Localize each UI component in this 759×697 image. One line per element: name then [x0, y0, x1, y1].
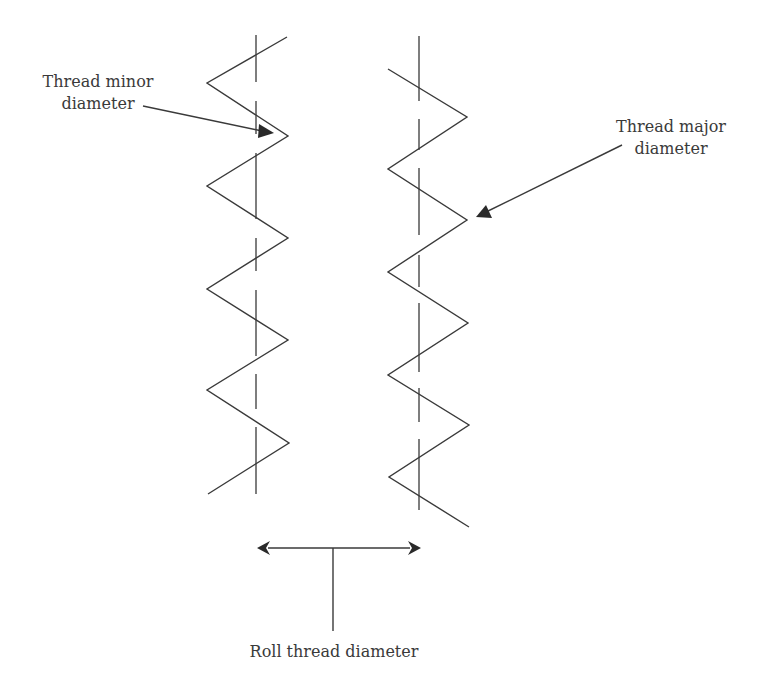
major-diameter-label: Thread major diameter [604, 116, 738, 160]
major-label-line2: diameter [604, 138, 738, 160]
major-label-line1: Thread major [604, 116, 738, 138]
minor-label-line1: Thread minor [30, 71, 166, 93]
minor-diameter-label: Thread minor diameter [30, 71, 166, 115]
arrowhead-icon [476, 205, 492, 218]
minor-label-line2: diameter [30, 93, 166, 115]
roll-diameter-label: Roll thread diameter [234, 641, 434, 663]
roll-diameter-dimension [257, 541, 421, 631]
right-thread-profile [388, 69, 469, 527]
left-thread-profile [207, 37, 289, 494]
major-diameter-arrow [476, 145, 622, 218]
